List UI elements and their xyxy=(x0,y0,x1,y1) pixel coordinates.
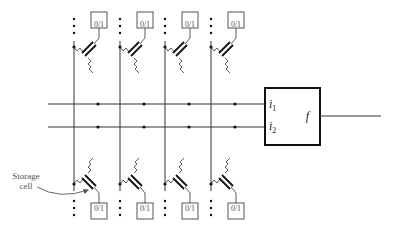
storage-cell-value: 0/1 xyxy=(94,204,104,213)
storage-cell-value: 0/1 xyxy=(231,20,241,29)
storage-cell-value: 0/1 xyxy=(231,204,241,213)
storage-cell-value: 0/1 xyxy=(185,204,195,213)
lut-diagram: 0/1 0/1 0/1 0/1 0/1 0/1 0/1 0/1 i1 i2 f … xyxy=(0,0,395,231)
annotation-arrow xyxy=(37,187,88,194)
input-lines xyxy=(48,104,265,127)
column-lines xyxy=(74,41,211,191)
storage-cell-value: 0/1 xyxy=(140,204,150,213)
annotation-storage: Storage xyxy=(12,171,40,181)
storage-labels-bottom: 0/1 0/1 0/1 0/1 xyxy=(94,204,241,213)
storage-labels-top: 0/1 0/1 0/1 0/1 xyxy=(94,20,241,29)
annotation-cell: cell xyxy=(20,181,33,191)
storage-cell-value: 0/1 xyxy=(94,20,104,29)
lut-function-box xyxy=(265,88,320,145)
storage-cell-value: 0/1 xyxy=(185,20,195,29)
storage-cell-value: 0/1 xyxy=(140,20,150,29)
